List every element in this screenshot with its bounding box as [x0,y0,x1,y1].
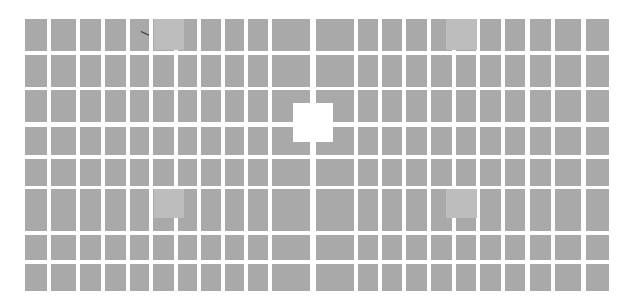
grid-tile [382,235,402,260]
grid-tile [153,159,174,186]
grid-tile [406,159,427,186]
grid-tile [480,19,501,51]
grid-tile [25,264,47,291]
grid-tile [25,55,47,87]
grid-tile [530,55,551,87]
grid-tile [178,264,197,291]
center-white-square [293,103,333,142]
grid-tile [456,55,476,87]
grid-tile [105,159,126,186]
grid-tile [153,264,174,291]
grid-tile [80,127,101,155]
grid-tile [25,127,47,155]
grid-tile [431,159,452,186]
grid-tile [555,19,581,51]
grid-tile [382,55,402,87]
grid-tile [130,159,149,186]
grid-tile [25,159,47,186]
grid-tile [225,127,244,155]
grid-tile [530,264,551,291]
grid-tile [505,55,525,87]
grid-tile [586,189,609,231]
grid-tile [480,55,501,87]
grid-tile [456,90,476,122]
grid-tile [316,55,354,87]
grid-tile [130,19,149,51]
grid-tile [51,264,76,291]
grid-tile [358,235,378,260]
grid-tile [25,90,47,122]
grid-tile [358,90,378,122]
grid-tile [505,90,525,122]
grid-tile [80,19,101,51]
grid-tile [456,235,476,260]
grid-tile [225,19,244,51]
grid-tile [130,127,149,155]
grid-tile [555,264,581,291]
grid-tile [358,189,378,231]
grid-tile [105,235,126,260]
grid-tile [248,189,268,231]
grid-tile [201,90,221,122]
grid-tile [505,127,525,155]
grid-tile [382,189,402,231]
grid-tile [316,189,354,231]
grid-tile [201,189,221,231]
grid-tile [555,189,581,231]
grid-tile [80,189,101,231]
grid-tile [201,159,221,186]
grid-tile [272,55,310,87]
grid-tile [586,159,609,186]
grid-tile [382,127,402,155]
grid-tile [480,159,501,186]
grid-tile [480,127,501,155]
grid-tile [382,264,402,291]
grid-tile [382,19,402,51]
tile-grid [0,0,634,308]
grid-tile [480,235,501,260]
grid-tile [406,264,427,291]
grid-tile [225,264,244,291]
grid-tile [248,264,268,291]
grid-tile [586,235,609,260]
grid-tile [153,55,174,87]
grid-tile [431,235,452,260]
grid-tile [105,90,126,122]
grid-tile [406,235,427,260]
grid-tile [51,189,76,231]
grid-tile [406,90,427,122]
grid-tile [80,55,101,87]
grid-tile [225,189,244,231]
grid-tile [51,159,76,186]
grid-tile [201,235,221,260]
grid-tile [80,264,101,291]
grid-tile [105,127,126,155]
grid-tile [178,235,197,260]
grid-tile [272,19,310,51]
grid-tile [248,159,268,186]
grid-tile [272,159,310,186]
grid-tile [530,19,551,51]
grid-tile [555,235,581,260]
grid-tile [456,264,476,291]
grid-tile [248,19,268,51]
grid-tile [382,90,402,122]
grid-tile [130,90,149,122]
grid-tile [530,189,551,231]
grid-tile [480,189,501,231]
grid-tile [431,90,452,122]
grid-tile [130,189,149,231]
grid-tile [456,159,476,186]
grid-tile [201,127,221,155]
grid-tile [316,159,354,186]
grid-tile [505,19,525,51]
grid-tile [51,127,76,155]
grid-tile [201,55,221,87]
grid-tile [358,127,378,155]
grid-tile [530,90,551,122]
grid-tile [178,90,197,122]
grid-tile [431,127,452,155]
grid-tile [153,90,174,122]
grid-tile [248,90,268,122]
grid-tile [178,159,197,186]
